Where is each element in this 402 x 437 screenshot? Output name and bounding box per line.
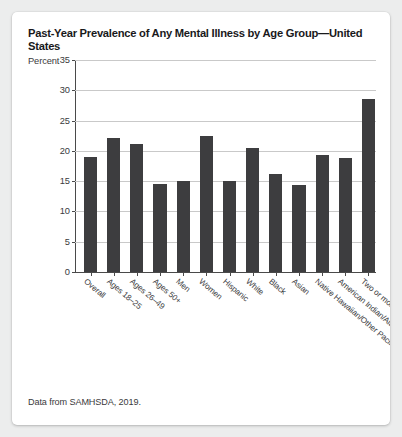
y-tick-mark — [72, 151, 75, 152]
x-axis-line — [75, 272, 376, 273]
y-tick-label: 25 — [30, 116, 70, 126]
x-tick-mark — [253, 273, 254, 276]
y-tick-mark — [72, 60, 75, 61]
y-tick-mark — [72, 181, 75, 182]
y-tick-label: 0 — [30, 267, 70, 277]
y-tick-label: 30 — [30, 85, 70, 95]
x-tick-mark — [276, 273, 277, 276]
x-tick-mark — [345, 273, 346, 276]
x-tick-label: Women — [198, 277, 225, 301]
y-tick-mark — [72, 272, 75, 273]
y-tick-mark — [72, 90, 75, 91]
x-tick-mark — [183, 273, 184, 276]
x-tick-mark — [230, 273, 231, 276]
plot-area: 05101520253035 — [75, 60, 376, 273]
y-tick-mark — [72, 211, 75, 212]
bar — [316, 155, 329, 273]
gridline — [75, 60, 376, 61]
y-tick-mark — [72, 242, 75, 243]
x-tick-mark — [160, 273, 161, 276]
chart-card: Past-Year Prevalence of Any Mental Illne… — [12, 12, 390, 425]
x-tick-mark — [368, 273, 369, 276]
bar — [130, 144, 143, 272]
chart-title: Past-Year Prevalence of Any Mental Illne… — [28, 27, 376, 54]
gridline — [75, 90, 376, 91]
bar — [269, 174, 282, 272]
y-tick-label: 10 — [30, 206, 70, 216]
bar — [200, 136, 213, 272]
y-tick-label: 35 — [30, 55, 70, 65]
x-tick-mark — [322, 273, 323, 276]
x-tick-label: Men — [174, 277, 192, 294]
x-tick-mark — [137, 273, 138, 276]
x-tick-label: Overall — [82, 277, 107, 300]
bar — [223, 181, 236, 272]
x-tick-mark — [91, 273, 92, 276]
bar — [362, 99, 375, 272]
y-tick-label: 15 — [30, 176, 70, 186]
y-tick-label: 20 — [30, 146, 70, 156]
y-tick-label: 5 — [30, 237, 70, 247]
source-note: Data from SAMHSDA, 2019. — [28, 397, 141, 407]
bar — [339, 158, 352, 272]
bar — [107, 138, 120, 272]
x-tick-label: Asian — [290, 277, 311, 297]
y-tick-mark — [72, 121, 75, 122]
x-tick-label: Black — [267, 277, 288, 296]
bar — [292, 185, 305, 272]
x-tick-mark — [299, 273, 300, 276]
x-tick-mark — [206, 273, 207, 276]
x-tick-mark — [114, 273, 115, 276]
bar — [177, 181, 190, 272]
bar — [246, 148, 259, 272]
bar — [153, 184, 166, 272]
bar — [84, 157, 97, 272]
gridline — [75, 121, 376, 122]
